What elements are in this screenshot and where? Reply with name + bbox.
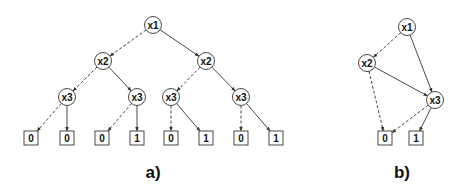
high-edge-m2-m3 [374, 67, 427, 96]
low-edge-m2-k0 [369, 71, 383, 131]
terminal-label: 0 [64, 133, 70, 144]
variable-label: x2 [200, 56, 212, 67]
variable-node-x3: x3 [163, 89, 180, 106]
terminal-node-0: 0 [95, 131, 109, 145]
high-edge-n6-l6 [177, 103, 201, 131]
terminal-label: 0 [238, 133, 244, 144]
variable-node-x2: x2 [359, 55, 376, 72]
variable-label: x3 [235, 92, 247, 103]
terminal-label: 0 [382, 133, 388, 144]
variable-label: x1 [147, 20, 159, 31]
high-edge-m1-m3 [410, 35, 432, 92]
variable-label: x2 [361, 58, 373, 69]
terminal-label: 1 [413, 133, 419, 144]
terminal-node-0: 0 [378, 131, 392, 145]
low-edge-m1-m2 [373, 33, 400, 58]
terminal-label: 1 [134, 133, 140, 144]
terminal-node-0: 0 [164, 131, 178, 145]
diagram-caption: a) [145, 163, 160, 182]
terminal-node-0: 0 [24, 131, 38, 145]
high-edge-n2-n5 [109, 67, 131, 91]
bdd-figure: x1x2x2x3x3x3x300010101a) x1x2x301b) [0, 0, 467, 192]
variable-label: x3 [131, 92, 143, 103]
variable-label: x3 [429, 95, 441, 106]
low-edge-n3-n6 [177, 67, 200, 91]
high-edge-n3-n7 [212, 67, 235, 91]
terminal-node-1: 1 [199, 131, 213, 145]
variable-node-x3: x3 [233, 89, 250, 106]
variable-node-x2: x2 [95, 53, 112, 70]
variable-label: x3 [165, 92, 177, 103]
terminal-label: 1 [273, 133, 279, 144]
high-edge-n1-n3 [160, 30, 199, 56]
high-edge-n7-l8 [247, 103, 271, 131]
variable-label: x1 [401, 22, 413, 33]
terminal-node-0: 0 [60, 131, 74, 145]
terminal-node-1: 1 [409, 131, 423, 145]
decision-tree-a: x1x2x2x3x3x3x300010101a) [24, 17, 283, 183]
variable-node-x3: x3 [129, 89, 146, 106]
variable-label: x3 [61, 92, 73, 103]
variable-node-x2: x2 [198, 53, 215, 70]
terminal-node-1: 1 [130, 131, 144, 145]
low-edge-n4-l1 [37, 103, 61, 131]
variable-node-x3: x3 [59, 89, 76, 106]
low-edge-m3-k0 [392, 105, 428, 133]
variable-node-x1: x1 [145, 17, 162, 34]
low-edge-n2-n4 [73, 67, 97, 91]
variable-node-x3: x3 [427, 92, 444, 109]
diagram-caption: b) [394, 163, 410, 182]
variable-label: x2 [97, 56, 109, 67]
low-edge-n1-n2 [110, 30, 146, 56]
terminal-node-1: 1 [269, 131, 283, 145]
terminal-label: 1 [203, 133, 209, 144]
terminal-node-0: 0 [234, 131, 248, 145]
variable-node-x1: x1 [399, 19, 416, 36]
terminal-label: 0 [168, 133, 174, 144]
reduced-bdd-b: x1x2x301b) [359, 19, 444, 183]
high-edge-m3-k1 [420, 108, 432, 131]
low-edge-n5-l3 [108, 103, 132, 131]
terminal-label: 0 [28, 133, 34, 144]
terminal-label: 0 [99, 133, 105, 144]
